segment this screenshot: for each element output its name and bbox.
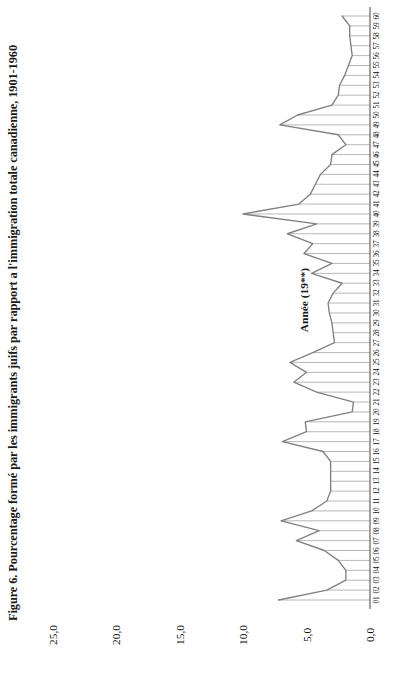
- value-axis-tick-label: 0,0: [364, 621, 376, 649]
- figure-page: Figure 6. Pourcentage formé par les immi…: [0, 0, 399, 675]
- category-axis-tick-label: 60: [371, 5, 383, 27]
- value-axis-tick-label: 10,0: [237, 621, 249, 649]
- value-axis-tick-label: 15,0: [174, 621, 186, 649]
- value-axis-tick-label: 5,0: [301, 621, 313, 649]
- chart-plot-area: [0, 0, 399, 675]
- figure-title: Figure 6. Pourcentage formé par les immi…: [0, 0, 26, 675]
- chart-svg: [0, 0, 399, 675]
- value-axis-tick-label: 20,0: [110, 621, 122, 649]
- category-axis-title: Année (19**): [298, 240, 314, 360]
- value-axis-tick-label: 25,0: [47, 621, 59, 649]
